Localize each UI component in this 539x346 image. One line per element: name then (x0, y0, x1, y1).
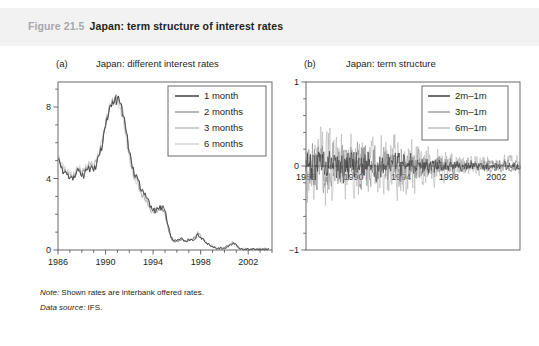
figure-caption: Figure 21.5Japan: term structure of inte… (28, 20, 283, 32)
svg-text:1: 1 (294, 77, 299, 87)
svg-text:1994: 1994 (143, 257, 163, 267)
svg-text:1990: 1990 (96, 257, 116, 267)
panel-a-subtitle: Japan: different interest rates (96, 58, 219, 69)
panel-b-tag: (b) (304, 58, 316, 69)
note-line: Note: Shown rates are interbank offered … (40, 288, 204, 297)
svg-text:3 months: 3 months (204, 122, 243, 133)
data-source-line: Data source: IFS. (40, 303, 102, 312)
chart-panel-b: (b) Japan: term structure −1011986199019… (288, 58, 528, 273)
panel-a-header: (a) Japan: different interest rates (40, 58, 280, 74)
svg-text:3m–1m: 3m–1m (455, 106, 487, 117)
chart-panel-a: (a) Japan: different interest rates 0481… (40, 58, 280, 273)
note-lead: Note: (40, 288, 59, 297)
svg-text:1998: 1998 (439, 172, 459, 182)
panel-a-tag: (a) (56, 58, 68, 69)
data-source-lead: Data source: (40, 303, 85, 312)
svg-text:1986: 1986 (48, 257, 68, 267)
data-source-text: IFS. (85, 303, 102, 312)
figure-title: Japan: term structure of interest rates (90, 20, 284, 32)
svg-text:1998: 1998 (191, 257, 211, 267)
svg-text:2 months: 2 months (204, 106, 243, 117)
svg-text:2002: 2002 (486, 172, 506, 182)
svg-text:0: 0 (294, 161, 299, 171)
svg-text:−1: −1 (289, 245, 299, 255)
panel-b-subtitle: Japan: term structure (346, 58, 436, 69)
svg-text:2002: 2002 (238, 257, 258, 267)
figure-number: Figure 21.5 (28, 20, 85, 32)
svg-text:8: 8 (46, 102, 51, 112)
chart-b-plot: −101198619901994199820022m–1m3m–1m6m–1m (288, 76, 528, 273)
panel-b-header: (b) Japan: term structure (288, 58, 528, 74)
svg-text:6m–1m: 6m–1m (455, 122, 487, 133)
svg-text:2m–1m: 2m–1m (455, 90, 487, 101)
svg-text:4: 4 (46, 174, 51, 184)
svg-text:0: 0 (46, 245, 51, 255)
svg-text:1 month: 1 month (204, 90, 238, 101)
note-text: Shown rates are interbank offered rates. (59, 288, 204, 297)
figure-container: Figure 21.5Japan: term structure of inte… (0, 0, 539, 346)
svg-text:6 months: 6 months (204, 138, 243, 149)
chart-a-plot: 048198619901994199820021 month2 months3 … (40, 76, 280, 273)
